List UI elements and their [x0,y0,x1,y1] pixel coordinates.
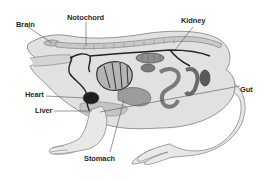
label-brain: Brain [16,20,35,29]
label-notochord: Notochord [67,13,104,22]
label-liver: Liver [35,106,52,115]
front-leg [49,106,107,154]
bladder [200,70,210,86]
gonad [141,64,155,72]
label-kidney: Kidney [181,16,205,25]
lung [97,62,133,91]
label-gut: Gut [240,85,253,94]
label-stomach: Stomach [84,154,115,163]
label-heart: Heart [25,90,44,99]
